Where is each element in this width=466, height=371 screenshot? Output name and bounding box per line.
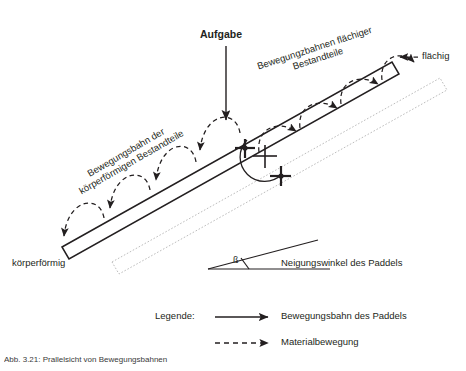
body-outlet-label: körperförmig xyxy=(12,258,65,269)
angle-symbol-label: ß xyxy=(233,255,239,265)
legend-item-paddle-path: Bewegungsbahn des Paddels xyxy=(281,311,407,322)
legend-item-material-movement: Materialbewegung xyxy=(281,337,359,348)
angle-caption-label: Neigungswinkel des Paddels xyxy=(281,258,402,269)
figure-canvas: Aufgabe Bewegungsbahn der körperförmigen… xyxy=(0,0,466,371)
figure-caption: Abb. 3.21: Prallelsicht von Bewegungsbah… xyxy=(4,355,304,369)
legend-title: Legende: xyxy=(155,311,195,322)
feed-label: Aufgabe xyxy=(200,28,242,40)
flat-outlet-label: flächig xyxy=(422,51,449,62)
